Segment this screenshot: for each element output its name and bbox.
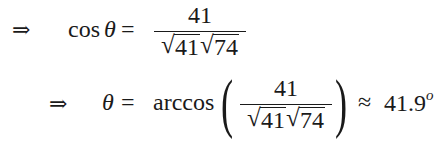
- result-number: 41.9: [384, 90, 426, 116]
- equals-sign-1: =: [121, 16, 135, 43]
- approx-sign: ≈: [358, 89, 371, 116]
- fraction-1: 41 √41√74: [154, 2, 246, 60]
- numerator-2: 41: [240, 75, 332, 101]
- denominator-1: √41√74: [154, 34, 246, 60]
- cos-function: cosθ: [68, 16, 116, 43]
- sqrt-74: √74: [200, 34, 239, 60]
- arccos-function: arccos: [153, 89, 214, 116]
- cos-label: cos: [68, 16, 100, 42]
- equals-sign-2: =: [121, 89, 135, 116]
- sqrt-74: √74: [286, 107, 325, 133]
- fraction-2: 41 √41√74: [240, 75, 332, 133]
- sqrt-41: √41: [161, 34, 200, 60]
- radical-sign-icon: √: [247, 104, 261, 132]
- result-value: 41.9o: [384, 89, 434, 117]
- open-paren: (: [221, 70, 233, 136]
- denominator-2: √41√74: [240, 107, 332, 133]
- radical-sign-icon: √: [161, 31, 175, 59]
- theta-symbol: θ: [104, 16, 116, 42]
- degree-symbol: o: [426, 87, 434, 103]
- numerator-1: 41: [154, 2, 246, 28]
- sqrt-41: √41: [247, 107, 286, 133]
- implies-arrow-1: ⇒: [12, 17, 30, 42]
- radical-sign-icon: √: [200, 31, 214, 59]
- radical-sign-icon: √: [286, 104, 300, 132]
- close-paren: ): [335, 70, 347, 136]
- theta-symbol-2: θ: [102, 89, 114, 116]
- implies-arrow-2: ⇒: [49, 91, 67, 116]
